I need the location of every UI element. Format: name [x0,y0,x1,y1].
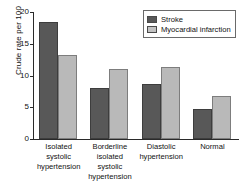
y-axis-tick-mark [30,76,34,77]
y-axis-tick-mark [30,139,34,140]
x-axis-category-label-line: hypertension [82,172,137,182]
legend-label-stroke: Stroke [161,15,183,24]
x-axis-category-labels: IsolatedsystolichypertensionBorderlineis… [33,142,239,194]
x-axis-category-label-line: Diastolic [134,142,189,152]
legend-item-stroke: Stroke [147,14,231,24]
x-axis-category-label-line: hypertension [134,152,189,162]
legend-swatch-icon-stroke [147,16,157,23]
x-axis-category-label-line: systolic [31,152,86,162]
bar [58,55,77,139]
x-axis-category-label-line: isolated [82,152,137,162]
y-axis-tick-label: 5 [25,102,29,111]
x-axis-category-label-line: Borderline [82,142,137,152]
bar-chart-figure: Crude rate per 100 05101520 Isolatedsyst… [0,0,239,194]
y-axis-tick-label: 10 [20,71,29,80]
y-axis-tick-label: 0 [25,134,29,143]
x-axis-category-label-line: Isolated [31,142,86,152]
bar [161,67,180,139]
chart-legend: Stroke Myocardial infarction [143,10,236,38]
legend-swatch-icon-myocardial-infarction [147,26,157,33]
bar [193,109,212,139]
x-axis-category-label: Normal [185,142,239,152]
legend-item-myocardial-infarction: Myocardial infarction [147,24,231,34]
legend-label-myocardial-infarction: Myocardial infarction [161,25,231,34]
bar [109,69,128,139]
y-axis-tick-mark [30,44,34,45]
x-axis-line [33,139,239,140]
x-axis-category-label: Borderlineisolatedsystolichypertension [82,142,137,182]
y-axis-tick-mark [30,12,34,13]
y-axis-tick-label: 20 [20,7,29,16]
y-axis-tick-mark [30,107,34,108]
x-axis-category-label: Diastolichypertension [134,142,189,162]
x-axis-category-label-line: hypertension [31,162,86,172]
x-axis-category-label-line: Normal [185,142,239,152]
bar [142,84,161,139]
bar [212,96,231,139]
x-axis-category-label-line: systolic [82,162,137,172]
y-axis-tick-label: 15 [20,39,29,48]
bar [90,88,109,139]
bar [39,22,58,139]
x-axis-category-label: Isolatedsystolichypertension [31,142,86,172]
